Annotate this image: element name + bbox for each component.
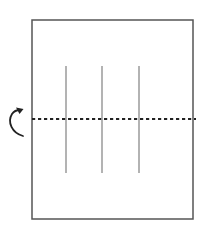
curved-fold-arrow-icon (10, 108, 23, 137)
folding-diagram (0, 0, 211, 225)
